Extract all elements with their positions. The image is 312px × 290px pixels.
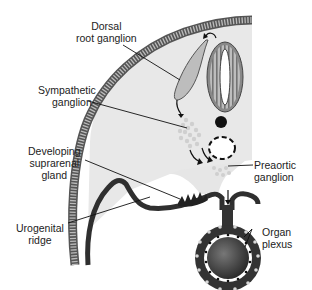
organ-with-plexus <box>195 205 261 290</box>
label-line: plexus <box>262 238 292 250</box>
label-line: gland <box>28 169 81 181</box>
label-developing-suprarenal-gland: Developing suprarenal gland <box>28 145 81 181</box>
label-preaortic-ganglion: Preaortic ganglion <box>254 159 296 183</box>
label-line: ridge <box>16 234 64 246</box>
label-organ-plexus: Organ plexus <box>262 226 292 250</box>
aorta <box>209 137 235 159</box>
developing-suprarenal-gland <box>178 192 208 207</box>
label-sympathetic-ganglion: Sympathetic ganglion <box>38 84 96 108</box>
label-line: ganglion <box>38 96 96 108</box>
label-line: Dorsal <box>76 20 137 32</box>
label-line: Organ <box>262 226 292 238</box>
neural-tube <box>207 42 243 112</box>
label-line: suprarenal <box>28 157 81 169</box>
label-urogenital-ridge: Urogenital ridge <box>16 222 64 246</box>
label-line: Urogenital <box>16 222 64 234</box>
label-line: root ganglion <box>76 32 137 44</box>
label-line: Sympathetic <box>38 84 96 96</box>
notochord <box>215 116 227 128</box>
label-dorsal-root-ganglion: Dorsal root ganglion <box>76 20 137 44</box>
label-line: ganglion <box>254 171 296 183</box>
label-line: Preaortic <box>254 159 296 171</box>
label-line: Developing <box>28 145 81 157</box>
